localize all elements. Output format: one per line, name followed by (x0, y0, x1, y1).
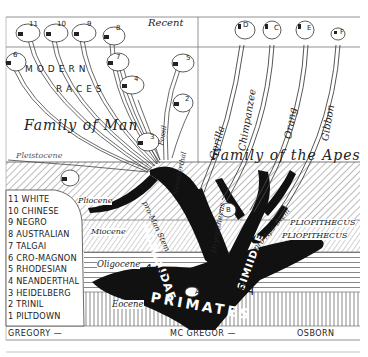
legend-item: 5 RHODESIAN (8, 264, 84, 276)
legend-item: 11 WHITE (8, 194, 84, 206)
legend-item: 3 HEIDELBERG (8, 288, 84, 300)
ape-skull-letter-e: E (307, 25, 311, 32)
skull-number-7: 7 (116, 54, 120, 61)
epoch-recent: Recent (148, 18, 183, 28)
skull-legend: 11 WHITE 10 CHINESE 9 NEGRO 8 AUSTRALIAN… (8, 194, 84, 323)
pliopithecus-label-1: PLIOPITHECUS (290, 219, 355, 227)
epoch-eocene: Eocene (112, 300, 144, 309)
credit-gregory: GREGORY — (8, 330, 62, 338)
legend-item: 10 CHINESE (8, 206, 84, 218)
ape-skull-letter-c: C (274, 25, 279, 32)
epoch-oligocene: Oligocene (97, 260, 140, 269)
legend-item: 2 TRINIL (8, 299, 84, 311)
family-of-man-label: Family of Man (24, 118, 138, 132)
modern-races-label-line2: RACES (56, 85, 106, 94)
fossil-skull-letter-a: A (195, 289, 200, 296)
epoch-pleistocene: Pleistocene (16, 152, 62, 160)
credit-mcgregor: MC GREGOR — (170, 330, 236, 338)
skull-number-10: 10 (57, 21, 66, 28)
skull-number-2: 2 (185, 96, 189, 103)
legend-item: 6 CRO-MAGNON (8, 253, 84, 265)
credit-osborn: OSBORN (297, 330, 335, 338)
skull-number-9: 9 (87, 21, 91, 28)
legend-item: 8 AUSTRALIAN (8, 229, 84, 241)
skull-number-5: 5 (186, 55, 190, 62)
skull-number-11: 11 (29, 21, 38, 28)
legend-item: 7 TALGAI (8, 241, 84, 253)
skull-number-8: 8 (116, 25, 120, 32)
epoch-miocene: Miocene (91, 228, 126, 236)
modern-races-label-line1: MODERN (25, 65, 89, 74)
legend-item: 4 NEANDERTHAL (8, 276, 84, 288)
skull-number-6: 6 (13, 52, 17, 59)
skull-number-4: 4 (134, 76, 138, 83)
legend-item: 9 NEGRO (8, 217, 84, 229)
family-of-apes-label: Family of the Apes (211, 148, 361, 162)
pliopithecus-label-2: PLIOPITHECUS (282, 232, 347, 240)
ape-skull-letter-d: D (243, 22, 248, 29)
ape-skull-letter-f: F (340, 29, 344, 36)
legend-item: 1 PILTDOWN (8, 311, 84, 323)
skull-number-3: 3 (150, 134, 154, 141)
fossil-skull-letter-b: B (226, 207, 231, 214)
